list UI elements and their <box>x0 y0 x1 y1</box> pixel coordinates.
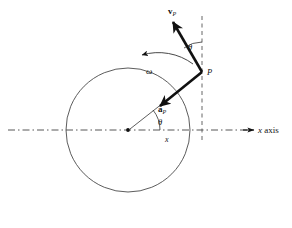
acceleration-vector <box>160 72 202 106</box>
x-axis-label: x axis <box>257 125 279 135</box>
circular-motion-figure: vP aP ω P θ θ x x axis <box>0 0 292 228</box>
omega-label: ω <box>146 66 152 76</box>
velocity-label: vP <box>168 6 177 17</box>
acceleration-label: aP <box>158 104 167 115</box>
x-distance-label: x <box>164 135 169 144</box>
acceleration-subscript: P <box>162 109 167 115</box>
diagram-root: vP aP ω P θ θ x x axis <box>0 0 292 228</box>
omega-arc <box>142 53 193 64</box>
point-p-label: P <box>206 67 212 77</box>
velocity-subscript: P <box>172 11 177 17</box>
theta-upper-label: θ <box>188 42 192 52</box>
center-point <box>126 128 130 132</box>
x-axis-word: axis <box>262 125 279 135</box>
theta-lower-label: θ <box>158 117 162 127</box>
